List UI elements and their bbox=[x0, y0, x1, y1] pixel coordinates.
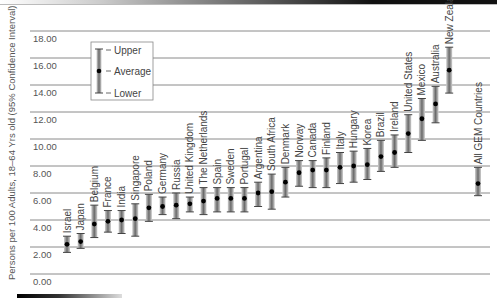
category-label: Poland bbox=[143, 160, 154, 191]
average-dot bbox=[420, 116, 425, 121]
average-dot bbox=[65, 242, 70, 247]
y-tick-label: 6.00 bbox=[33, 195, 52, 206]
average-dot bbox=[92, 222, 97, 227]
average-dot bbox=[256, 191, 261, 196]
error-bar-poland: Poland bbox=[143, 160, 154, 221]
average-dot bbox=[215, 196, 220, 201]
average-dot bbox=[476, 181, 481, 186]
error-bar-norway: Norway bbox=[294, 124, 305, 187]
y-tick-label: 8.00 bbox=[33, 168, 52, 179]
category-label: Denmark bbox=[280, 123, 291, 165]
y-tick-label: 2.00 bbox=[33, 249, 52, 260]
average-dot bbox=[78, 239, 83, 244]
category-label: Singapore bbox=[130, 155, 141, 201]
error-bar-the-netherlands: The Netherlands bbox=[198, 111, 209, 215]
y-tick-label: 10.00 bbox=[33, 141, 57, 152]
legend: Upper Average Lower bbox=[91, 42, 153, 100]
category-label: Korea bbox=[362, 118, 373, 145]
category-label: South Africa bbox=[266, 117, 277, 171]
category-label: Spain bbox=[212, 159, 223, 185]
category-label: Mexico bbox=[416, 63, 427, 95]
error-bar-hungary: Hungary bbox=[348, 110, 359, 182]
error-bar-russia: Russia bbox=[171, 159, 182, 219]
error-bar-united-kingdom: United Kingdom bbox=[184, 123, 195, 212]
category-label: Japan bbox=[75, 203, 86, 230]
error-bar-india: India bbox=[116, 185, 127, 233]
error-bar-united-states: United States bbox=[403, 52, 414, 153]
average-dot bbox=[406, 131, 411, 136]
category-label: United Kingdom bbox=[184, 123, 195, 194]
error-bar-singapore: Singapore bbox=[130, 155, 141, 236]
error-bar-canada: Canada bbox=[307, 122, 318, 187]
y-axis-ticks: 0.002.004.006.008.0010.0012.0014.0016.00… bbox=[33, 33, 57, 287]
average-dot bbox=[187, 201, 192, 206]
error-bar-japan: Japan bbox=[75, 203, 86, 248]
category-label: Norway bbox=[294, 124, 305, 158]
category-label: Italy bbox=[335, 131, 346, 149]
average-dot bbox=[433, 102, 438, 107]
error-bar-all-gem-countries: All GEM Countries bbox=[473, 82, 484, 196]
category-label: Australia bbox=[430, 44, 441, 83]
category-label: United States bbox=[403, 52, 414, 112]
category-label: Canada bbox=[307, 122, 318, 157]
category-label: All GEM Countries bbox=[473, 82, 484, 164]
average-dot bbox=[447, 68, 452, 73]
average-dot bbox=[119, 218, 124, 223]
category-label: France bbox=[102, 176, 113, 208]
category-label: Israel bbox=[62, 209, 73, 233]
average-dot bbox=[106, 219, 111, 224]
average-dot bbox=[283, 180, 288, 185]
average-dot bbox=[379, 154, 384, 159]
category-label: Belgium bbox=[89, 166, 100, 202]
category-label: Argentina bbox=[253, 136, 264, 179]
legend-dot-icon bbox=[97, 69, 102, 74]
category-label: Sweden bbox=[225, 148, 236, 184]
error-bar-israel: Israel bbox=[62, 209, 73, 253]
y-axis-label: Persons per 100 Adults, 18–64 Yrs old (9… bbox=[6, 6, 17, 280]
category-label: Germany bbox=[157, 153, 168, 194]
average-dot bbox=[310, 168, 315, 173]
average-dot bbox=[147, 205, 152, 210]
error-bar-spain: Spain bbox=[212, 159, 223, 212]
y-tick-label: 0.00 bbox=[33, 276, 52, 287]
error-bar-argentina: Argentina bbox=[253, 136, 264, 207]
category-label: Hungary bbox=[348, 110, 359, 148]
error-bar-belgium: Belgium bbox=[89, 166, 100, 238]
error-bar-france: France bbox=[102, 176, 113, 232]
error-bar-australia: Australia bbox=[430, 44, 441, 123]
average-dot bbox=[392, 150, 397, 155]
category-label: Finland bbox=[321, 122, 332, 155]
average-dot bbox=[228, 196, 233, 201]
y-tick-label: 16.00 bbox=[33, 60, 57, 71]
category-label: New Zealand bbox=[444, 0, 455, 44]
y-tick-label: 4.00 bbox=[33, 222, 52, 233]
category-label: Ireland bbox=[389, 101, 400, 132]
average-dot bbox=[269, 189, 274, 194]
average-dot bbox=[338, 165, 343, 170]
error-bar-denmark: Denmark bbox=[280, 123, 291, 197]
average-dot bbox=[201, 199, 206, 204]
category-label: Brazil bbox=[375, 112, 386, 137]
y-tick-label: 12.00 bbox=[33, 114, 57, 125]
error-bar-south-africa: South Africa bbox=[266, 117, 277, 209]
average-dot bbox=[324, 168, 329, 173]
error-bar-germany: Germany bbox=[157, 153, 168, 215]
error-bar-italy: Italy bbox=[335, 131, 346, 183]
average-dot bbox=[133, 216, 138, 221]
average-dot bbox=[297, 170, 302, 175]
error-bar-korea: Korea bbox=[362, 118, 373, 179]
error-bar-sweden: Sweden bbox=[225, 148, 236, 211]
error-bar-brazil: Brazil bbox=[375, 112, 386, 171]
error-bars: IsraelJapanBelgiumFranceIndiaSingaporePo… bbox=[62, 0, 484, 252]
category-label: India bbox=[116, 185, 127, 207]
average-dot bbox=[351, 164, 356, 169]
average-dot bbox=[160, 204, 165, 209]
category-label: The Netherlands bbox=[198, 111, 209, 185]
error-bar-new-zealand: New Zealand bbox=[444, 0, 455, 93]
error-bar-chart: 0.002.004.006.008.0010.0012.0014.0016.00… bbox=[0, 0, 497, 298]
legend-average-label: Average bbox=[114, 66, 152, 77]
average-dot bbox=[174, 203, 179, 208]
y-tick-label: 14.00 bbox=[33, 87, 57, 98]
legend-upper-label: Upper bbox=[114, 45, 142, 56]
error-bar-mexico: Mexico bbox=[416, 63, 427, 140]
